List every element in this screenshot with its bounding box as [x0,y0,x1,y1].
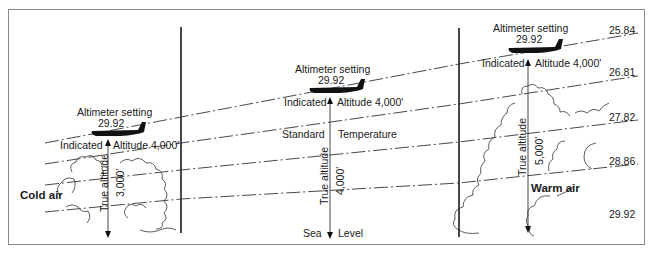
warm-true-altitude-value: 5,000' [533,137,545,165]
level-label: Level [338,227,363,239]
sea-label: Sea [303,227,322,239]
pressure-value-26-81: 26.81 [609,66,635,78]
warm-air-label: Warm air [531,182,580,194]
cold-true-altitude-label: True altitude [98,154,110,212]
standard-label: Standard [282,128,325,140]
warm-altimeter-setting-value: 29.92 [516,33,542,45]
standard-indicated-label: Indicated [284,96,327,108]
warm-indicated-label: Indicated [482,57,525,69]
cold-air-label: Cold air [20,189,63,201]
standard-true-altitude-label: True altitude [318,147,330,205]
cold-indicated-label: Indicated [60,139,103,151]
warm-air-clouds-icon [453,84,609,236]
warm-indicated-altitude: Altitude 4,000' [535,57,601,69]
warm-true-altitude-label: True altitude [516,118,528,176]
cold-true-altitude-value: 3,000' [114,169,126,197]
temperature-label: Temperature [338,128,397,140]
cold-indicated-altitude: Altitude 4,000' [113,139,179,151]
pressure-value-25-84: 25.84 [609,24,635,36]
pressure-value-28-86: 28.86 [609,155,635,167]
standard-indicated-altitude: Altitude 4,000' [337,96,403,108]
cold-altimeter-setting-value: 29.92 [98,117,124,129]
pressure-value-29-92: 29.92 [609,208,635,220]
pressure-value-27-82: 27.82 [609,111,635,123]
standard-true-altitude-value: 4,000' [334,167,346,195]
standard-altimeter-setting-value: 29.92 [318,74,344,86]
